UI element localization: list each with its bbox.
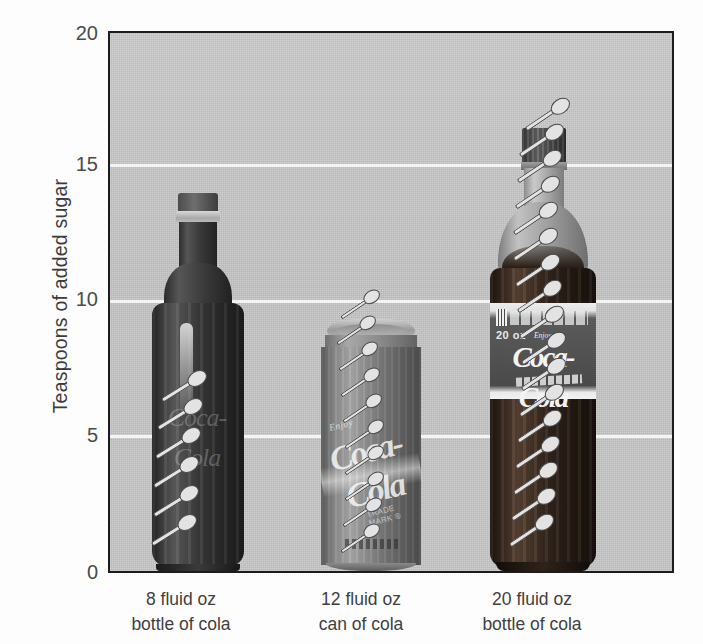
y-tick-10: 10 (36, 288, 98, 310)
y-tick-5: 5 (36, 424, 98, 446)
bar-bottle-20oz: 20 oz Enjoy Coca-Cola (488, 128, 598, 571)
x-category-label-8oz: 8 fluid oz bottle of cola (81, 587, 281, 637)
chart-figure: Teaspoons of added sugar 20 15 10 5 0 Co… (0, 0, 703, 644)
y-tick-0: 0 (36, 561, 98, 583)
x-category-line1: 12 fluid oz (261, 587, 461, 612)
y-tick-20: 20 (36, 22, 98, 44)
x-category-label-20oz: 20 fluid oz bottle of cola (432, 587, 632, 637)
barcode-icon (496, 309, 507, 326)
bar-can-12oz: Enjoy Coca-Cola TRADE MARK ® (319, 319, 423, 571)
x-category-line2: can of cola (261, 612, 461, 637)
x-category-line2: bottle of cola (81, 612, 281, 637)
x-category-line1: 8 fluid oz (81, 587, 281, 612)
x-category-line1: 20 fluid oz (432, 587, 632, 612)
x-category-line2: bottle of cola (432, 612, 632, 637)
bar-bottle-8oz: Coca-Cola (146, 193, 250, 571)
bottle-base (496, 562, 590, 571)
x-category-label-12oz: 12 fluid oz can of cola (261, 587, 461, 637)
plot-area: Coca-Cola Enjoy Coca-Cola TRADE MARK ® (108, 31, 674, 573)
can-base (326, 563, 416, 571)
bottle-base (156, 564, 240, 571)
bottle-neck (179, 222, 217, 268)
y-tick-15: 15 (36, 153, 98, 175)
